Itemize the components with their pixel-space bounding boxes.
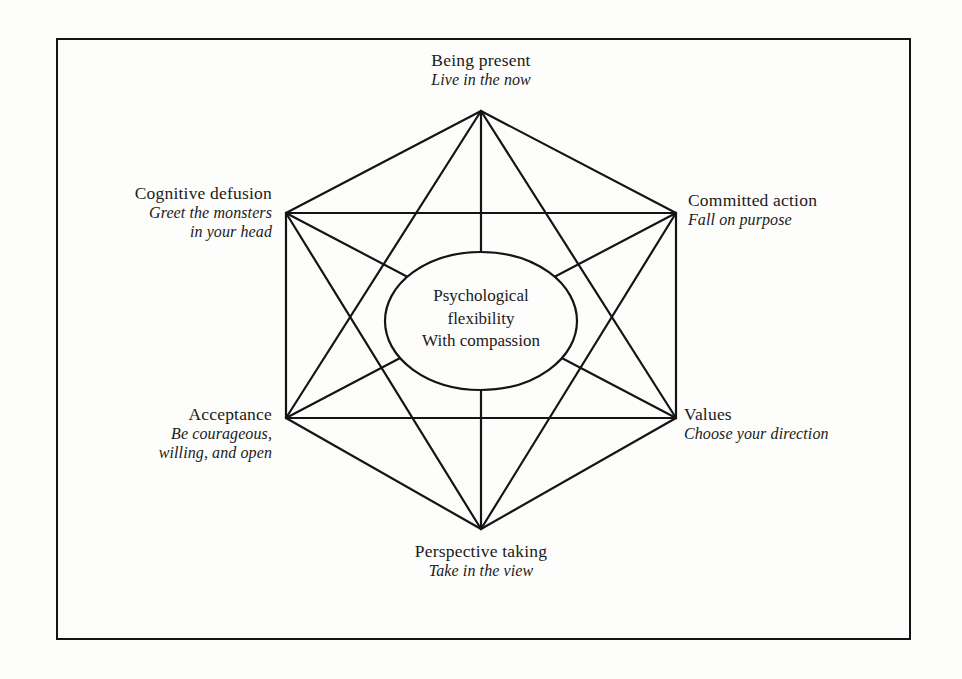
node-title-being-present: Being present <box>331 50 631 71</box>
node-subtitle-committed-action: Fall on purpose <box>688 211 948 230</box>
node-subtitle-acceptance-line-2: willing, and open <box>12 444 272 463</box>
node-title-committed-action: Committed action <box>688 190 948 211</box>
central-label-line-2: flexibility <box>381 308 581 331</box>
diagram-page: Psychological flexibility With compassio… <box>0 0 962 679</box>
node-label-perspective-taking: Perspective taking Take in the view <box>331 541 631 581</box>
node-label-values: Values Choose your direction <box>684 404 944 444</box>
node-title-perspective-taking: Perspective taking <box>331 541 631 562</box>
edge-bottom-to-lower-left <box>286 418 481 529</box>
node-title-values: Values <box>684 404 944 425</box>
node-subtitle-cognitive-defusion-line-2: in your head <box>12 223 272 242</box>
node-label-being-present: Being present Live in the now <box>331 50 631 90</box>
node-subtitle-cognitive-defusion-line-1: Greet the monsters <box>12 204 272 223</box>
node-label-committed-action: Committed action Fall on purpose <box>688 190 948 230</box>
node-subtitle-being-present: Live in the now <box>331 71 631 90</box>
central-label-line-3: With compassion <box>381 330 581 353</box>
edge-lower-right-to-bottom <box>481 418 676 529</box>
central-label-line-1: Psychological <box>381 285 581 308</box>
node-subtitle-values: Choose your direction <box>684 425 944 444</box>
central-label: Psychological flexibility With compassio… <box>381 285 581 353</box>
node-title-acceptance: Acceptance <box>12 404 272 425</box>
edge-top-to-upper-right <box>481 111 676 213</box>
node-subtitle-acceptance-line-1: Be courageous, <box>12 425 272 444</box>
node-label-cognitive-defusion: Cognitive defusion Greet the monsters in… <box>12 183 272 241</box>
node-subtitle-perspective-taking: Take in the view <box>331 562 631 581</box>
edge-upper-left-to-top <box>286 111 481 213</box>
node-title-cognitive-defusion: Cognitive defusion <box>12 183 272 204</box>
node-label-acceptance: Acceptance Be courageous, willing, and o… <box>12 404 272 462</box>
